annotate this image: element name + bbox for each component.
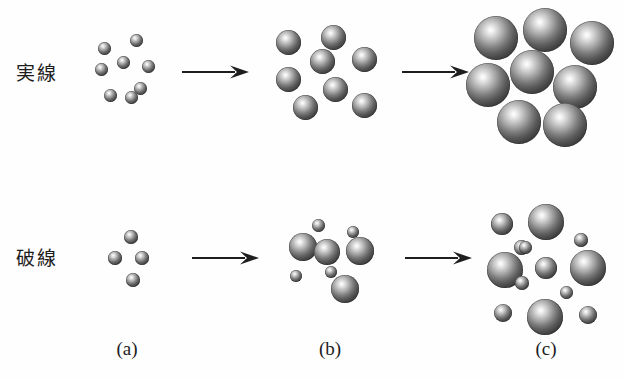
- particle-sphere: [528, 204, 564, 240]
- arrow-dashed-b-to-c: [403, 246, 473, 270]
- particle-sphere: [574, 233, 588, 247]
- caption-c: (c): [516, 338, 576, 360]
- particle-sphere: [570, 250, 606, 286]
- particle-sphere: [560, 286, 573, 299]
- caption-b: (b): [300, 338, 360, 360]
- particle-sphere: [494, 304, 512, 322]
- arrow-solid-b-to-c: [400, 60, 470, 84]
- caption-a: (a): [97, 338, 157, 360]
- arrow-dashed-a-to-b: [190, 246, 260, 270]
- arrow-solid-a-to-b: [180, 60, 250, 84]
- particle-sphere: [515, 276, 529, 290]
- particle-sphere: [519, 241, 532, 254]
- particle-sphere: [491, 213, 513, 235]
- cluster-dashed-stage-c: [0, 0, 625, 379]
- particle-coarsening-figure: 実線 破線 (a) (b) (c): [0, 0, 625, 379]
- particle-sphere: [579, 306, 597, 324]
- particle-sphere: [527, 299, 563, 335]
- particle-sphere: [535, 257, 557, 279]
